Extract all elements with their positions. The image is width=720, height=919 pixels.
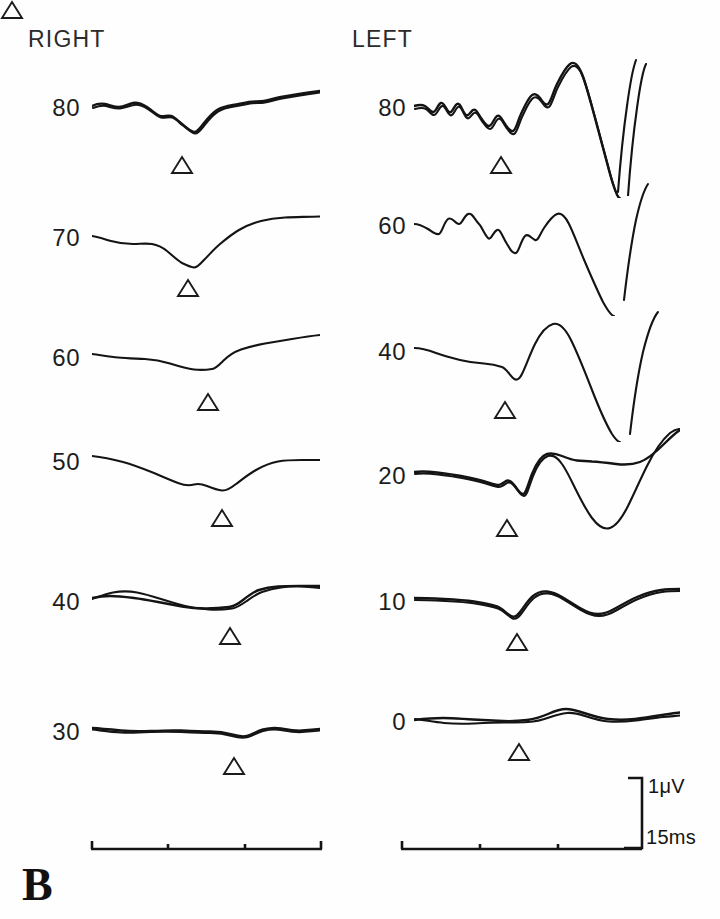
trace-left-60-tail: [600, 182, 720, 302]
scale-label-amplitude: 1μV: [648, 775, 685, 798]
row-label-left-0: 0: [352, 708, 406, 736]
latency-marker-right-70: [176, 278, 200, 298]
trace-left-10: [414, 568, 680, 638]
latency-marker-left-10: [505, 632, 529, 652]
row-label-left-40: 40: [352, 338, 406, 366]
latency-marker-left-20: [495, 518, 519, 538]
row-label-right-80: 80: [26, 94, 80, 122]
latency-marker-right-60: [196, 392, 220, 412]
row-label-left-10: 10: [352, 588, 406, 616]
trace-right-80: [92, 76, 320, 146]
scale-label-time: 15ms: [646, 826, 696, 849]
trace-right-50: [92, 422, 320, 502]
evoked-potential-figure: RIGHT LEFT 80 70 60: [0, 0, 720, 919]
row-label-right-60: 60: [26, 344, 80, 372]
latency-marker-left-40: [493, 400, 517, 420]
trace-left-80-tail: [600, 56, 720, 196]
column-header-left: LEFT: [352, 26, 413, 53]
panel-letter: B: [22, 862, 53, 908]
row-label-right-70: 70: [26, 224, 80, 252]
row-label-right-30: 30: [26, 718, 80, 746]
latency-marker-left-60: [0, 0, 24, 20]
latency-marker-right-80: [170, 155, 194, 175]
time-axis-right: [90, 838, 324, 854]
trace-left-40-tail: [600, 308, 720, 436]
row-label-left-20: 20: [352, 462, 406, 490]
column-header-right: RIGHT: [28, 26, 106, 53]
trace-right-30: [92, 700, 320, 754]
latency-marker-right-30: [222, 756, 246, 776]
trace-left-20: [414, 428, 680, 544]
time-axis-left: [400, 838, 644, 854]
latency-marker-left-80: [489, 155, 513, 175]
row-label-right-50: 50: [26, 448, 80, 476]
row-label-left-60: 60: [352, 212, 406, 240]
row-label-left-80: 80: [352, 94, 406, 122]
trace-right-70: [92, 198, 320, 276]
latency-marker-right-40: [218, 626, 242, 646]
trace-left-0: [414, 692, 680, 748]
trace-right-40: [92, 566, 320, 632]
trace-right-60: [92, 318, 320, 390]
latency-marker-right-50: [210, 508, 234, 528]
row-label-right-40: 40: [26, 588, 80, 616]
latency-marker-left-0: [507, 742, 531, 762]
